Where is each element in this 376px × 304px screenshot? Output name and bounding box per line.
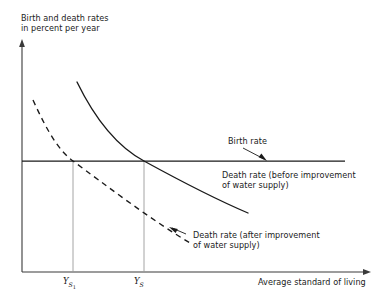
xtick-label-ys1: YS1 <box>63 276 76 290</box>
chart-plot-area <box>0 0 376 304</box>
chart-figure: Birth and death ratesin percent per year… <box>0 0 376 304</box>
xtick-ys-sub: S <box>140 281 144 288</box>
death-rate-after-line2: of water supply) <box>193 240 260 250</box>
xtick-ys1-subsub: 1 <box>73 284 76 290</box>
y-axis <box>19 39 25 272</box>
xtick-label-ys: YS <box>134 276 144 288</box>
birth-rate-annotation: Birth rate <box>228 136 267 146</box>
y-axis-label-line2: in percent per year <box>21 23 100 33</box>
x-axis-label: Average standard of living <box>258 277 366 287</box>
death-after-leader <box>169 227 186 234</box>
death-rate-before-line2: of water supply) <box>222 180 289 190</box>
x-axis-arrow-icon <box>363 269 371 275</box>
x-axis <box>22 269 371 275</box>
death-rate-before-curve <box>77 82 248 213</box>
y-axis-label-line1: Birth and death rates <box>21 13 108 23</box>
death-rate-after-curve <box>33 100 190 243</box>
y-axis-arrow-icon <box>19 39 25 47</box>
death-rate-before-line1: Death rate (before improvement <box>222 170 356 180</box>
birth-rate-leader-arrow-icon <box>259 153 267 161</box>
y-axis-label: Birth and death ratesin percent per year <box>21 13 108 34</box>
death-rate-after-line1: Death rate (after improvement <box>193 230 320 240</box>
death-rate-after-annotation: Death rate (after improvementof water su… <box>193 230 320 251</box>
birth-rate-leader <box>243 148 267 161</box>
death-rate-before-annotation: Death rate (before improvementof water s… <box>222 170 356 191</box>
